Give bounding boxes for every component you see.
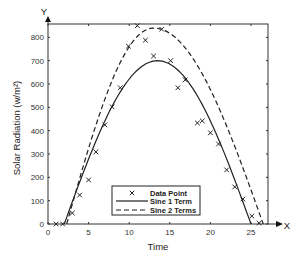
legend-label: Sine 1 Term [150,197,192,206]
legend-label: Sine 2 Terms [150,206,196,215]
data-point-marker [151,54,156,59]
data-point-marker [224,168,229,173]
solar-radiation-chart: 05101520250100200300400500600700800 Data… [0,0,302,259]
y-tick-label: 300 [31,150,45,159]
x-tick-label: 0 [46,228,51,237]
x-arrow-label: X [284,220,291,231]
y-axis-title: Solar Radiation (w/m²) [11,81,22,176]
y-tick-label: 0 [40,220,45,229]
y-tick-label: 200 [31,173,45,182]
data-point-marker [143,38,148,43]
x-tick-label: 10 [125,228,134,237]
data-point-marker [257,221,262,226]
y-tick-label: 700 [31,57,45,66]
data-point-marker [195,121,200,126]
x-tick-label: 5 [86,228,91,237]
data-point-marker [208,130,213,135]
y-tick-label: 400 [31,127,45,136]
y-arrow-label: Y [41,6,48,17]
data-point-marker [200,119,205,124]
y-tick-label: 600 [31,80,45,89]
x-tick-label: 25 [247,228,256,237]
x-tick-label: 20 [206,228,215,237]
data-point-marker [77,193,82,198]
x-tick-label: 15 [165,228,174,237]
data-point-marker [94,150,99,155]
data-point-marker [86,178,91,183]
data-point-marker [118,85,123,90]
x-axis-title: Time [148,241,169,252]
y-tick-label: 100 [31,197,45,206]
data-point-marker [168,58,173,63]
legend: Data PointSine 1 TermSine 2 Terms [112,186,200,215]
data-point-marker [70,211,75,216]
y-tick-label: 800 [31,33,45,42]
data-point-marker [232,185,237,190]
data-point-marker [250,214,255,219]
y-tick-label: 500 [31,103,45,112]
data-point-marker [176,85,181,90]
